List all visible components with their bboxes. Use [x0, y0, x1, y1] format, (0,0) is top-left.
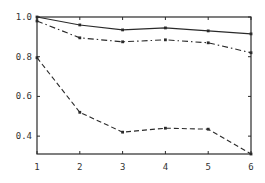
- data-point-marker: [36, 16, 39, 19]
- data-point-marker: [207, 29, 210, 32]
- data-point-marker: [250, 51, 253, 54]
- x-axis-ticks: 123456: [34, 17, 253, 172]
- data-point-marker: [78, 24, 81, 27]
- series-line-solid: [37, 17, 251, 34]
- y-tick-label: 0.4: [16, 131, 32, 141]
- series-line-dashed: [37, 58, 251, 154]
- data-point-marker: [121, 40, 124, 43]
- data-point-marker: [250, 153, 253, 156]
- x-tick-label: 2: [77, 162, 82, 172]
- data-point-marker: [207, 128, 210, 131]
- x-tick-label: 4: [163, 162, 168, 172]
- series-line-dash-dot: [37, 21, 251, 53]
- data-point-marker: [78, 36, 81, 39]
- x-tick-label: 6: [248, 162, 253, 172]
- data-point-marker: [121, 131, 124, 134]
- x-tick-label: 3: [120, 162, 125, 172]
- data-point-marker: [36, 56, 39, 59]
- data-point-marker: [164, 27, 167, 30]
- x-tick-label: 1: [34, 162, 39, 172]
- x-tick-label: 5: [205, 162, 210, 172]
- plot-frame: [37, 17, 251, 154]
- data-point-marker: [36, 20, 39, 23]
- plot-border: [37, 17, 251, 154]
- data-point-marker: [164, 38, 167, 41]
- data-point-marker: [250, 32, 253, 35]
- line-chart: 1.00.80.60.4 123456: [0, 0, 265, 183]
- y-tick-label: 1.0: [16, 12, 32, 22]
- y-tick-label: 0.6: [16, 91, 32, 101]
- data-point-marker: [121, 29, 124, 32]
- y-tick-label: 0.8: [16, 52, 32, 62]
- data-point-marker: [207, 41, 210, 44]
- data-point-marker: [78, 111, 81, 114]
- data-point-marker: [164, 127, 167, 130]
- data-series: [36, 16, 253, 156]
